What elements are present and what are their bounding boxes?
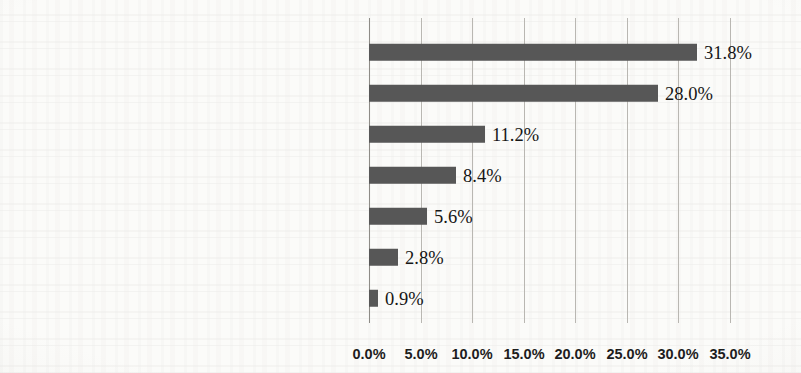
bar-value-label: 5.6% [434,207,473,226]
bar[interactable] [369,290,378,307]
bar-row: Intelligent recommendation8.4% [369,155,730,196]
bar-chart: Entertainment31.8%Knowledge28.0%Positive… [0,0,801,373]
x-axis-tick-label: 10.0% [451,346,492,362]
bar-row: Social2.8% [369,237,730,278]
x-axis-tick-label: 25.0% [606,346,647,362]
bar-value-label: 8.4% [463,166,502,185]
bar-value-label: 28.0% [665,84,713,103]
x-axis-tick-label: 15.0% [503,346,544,362]
bar[interactable] [369,44,697,61]
bar-row: Entertainment31.8% [369,32,730,73]
bar[interactable] [369,85,658,102]
gridline-35.0% [730,18,731,323]
bar-row: Commercial0.9% [369,278,730,319]
x-axis-tick-label: 30.0% [657,346,698,362]
bar[interactable] [369,249,398,266]
x-axis-tick-label: 0.0% [352,346,385,362]
bar-with-label[interactable]: 2.8% [369,248,444,267]
bar-with-label[interactable]: 28.0% [369,84,713,103]
bar[interactable] [369,126,485,143]
x-axis-tick-label: 5.0% [404,346,437,362]
bar-with-label[interactable]: 5.6% [369,207,473,226]
bar-with-label[interactable]: 0.9% [369,289,424,308]
bar-with-label[interactable]: 31.8% [369,43,752,62]
plot-area: Entertainment31.8%Knowledge28.0%Positive… [369,18,730,323]
bar-value-label: 2.8% [405,248,444,267]
x-axis-tick-label: 20.0% [554,346,595,362]
bar-value-label: 11.2% [492,125,539,144]
bar[interactable] [369,208,427,225]
bar-with-label[interactable]: 11.2% [369,125,539,144]
bar[interactable] [369,167,456,184]
bar-row: Knowledge28.0% [369,73,730,114]
bar-row: Positive energy11.2% [369,114,730,155]
bar-row: Music5.6% [369,196,730,237]
bar-with-label[interactable]: 8.4% [369,166,502,185]
x-axis-tick-label: 35.0% [709,346,750,362]
bar-value-label: 31.8% [704,43,752,62]
bar-value-label: 0.9% [385,289,424,308]
